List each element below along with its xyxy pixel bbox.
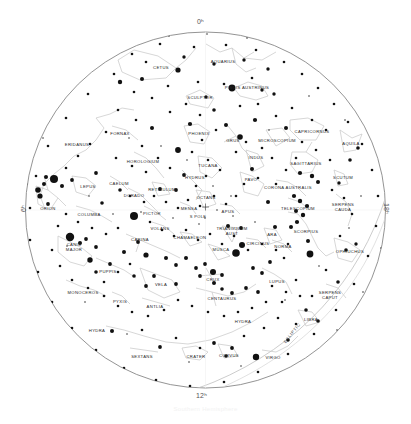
chart-caption: Southern Hemisphere bbox=[0, 406, 411, 412]
ra-label-12h: 12ʰ bbox=[196, 392, 207, 399]
sky-map-svg bbox=[0, 0, 411, 424]
ra-label-6h: 6ʰ bbox=[20, 205, 27, 212]
ra-label-0h: 0ʰ bbox=[197, 18, 204, 25]
south-pole-label: S POLE bbox=[190, 214, 206, 219]
star-chart: 0ʰ 6ʰ 12ʰ 18ʰ ECLIPTIC S POLE CETUSAQUAR… bbox=[0, 0, 411, 424]
ra-label-18h: 18ʰ bbox=[383, 203, 390, 214]
